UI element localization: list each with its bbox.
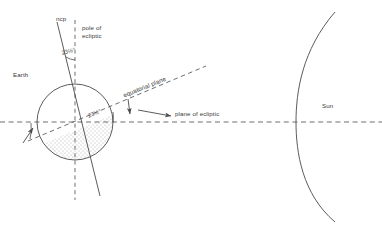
plane-of-ecliptic-label: plane of ecliptic xyxy=(175,110,219,118)
sun-label: Sun xyxy=(322,102,333,110)
axis-tilt-angle-arc xyxy=(66,57,75,60)
equatorial-plane-line xyxy=(28,66,206,141)
pole-of-ecliptic-label: pole of ecliptic xyxy=(82,24,102,40)
earth-shaded-region xyxy=(28,76,205,200)
diagram-canvas: ncp pole of ecliptic Earth 23½° 23½° equ… xyxy=(0,0,382,231)
plane-of-ecliptic-arrow xyxy=(138,110,171,116)
sun-limb-arc xyxy=(296,12,335,222)
ncp-label: ncp xyxy=(56,15,66,23)
equatorial-plane-arrow xyxy=(128,99,130,114)
earth-label: Earth xyxy=(13,71,28,79)
